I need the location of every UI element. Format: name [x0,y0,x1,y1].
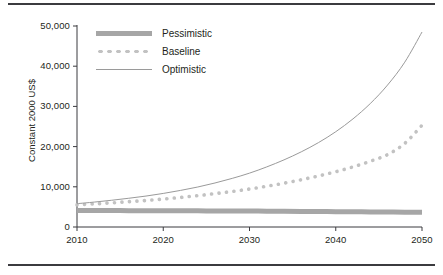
legend-item-pessimistic: Pessimistic [96,26,212,40]
legend-line-icon [96,31,152,36]
legend-line-icon [96,50,152,54]
legend-item-baseline: Baseline [96,44,212,58]
figure-container: Constant 2000 US$ 010,00020,00030,00040,… [0,0,443,275]
plot-area [0,0,443,275]
legend-label: Pessimistic [162,28,212,39]
legend-swatch-optimistic [96,63,152,75]
legend-item-optimistic: Optimistic [96,62,212,76]
legend-swatch-baseline [96,45,152,57]
legend-line-icon [96,69,152,70]
legend-label: Optimistic [162,64,206,75]
series-line-baseline [77,125,422,205]
legend-label: Baseline [162,46,200,57]
chart-legend: PessimisticBaselineOptimistic [96,26,212,76]
legend-swatch-pessimistic [96,27,152,39]
series-line-pessimistic [77,211,422,213]
